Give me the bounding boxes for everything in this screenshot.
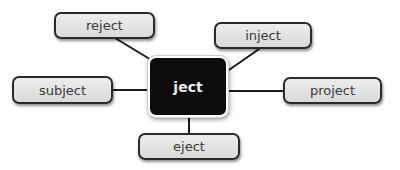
node-subject: subject — [12, 76, 113, 104]
node-project: project — [283, 77, 382, 104]
node-reject: reject — [54, 12, 155, 39]
node-label: eject — [173, 139, 205, 154]
node-inject: inject — [214, 22, 312, 49]
center-node-ject: ject — [148, 56, 228, 117]
connector-reject — [115, 38, 153, 61]
center-label: ject — [173, 79, 202, 95]
node-label: reject — [86, 18, 123, 33]
connector-inject — [226, 47, 262, 72]
node-label: project — [310, 83, 355, 98]
word-web-diagram: reject inject subject project eject ject — [0, 0, 400, 170]
node-label: inject — [245, 28, 281, 43]
node-eject: eject — [138, 133, 240, 160]
node-label: subject — [39, 83, 86, 98]
